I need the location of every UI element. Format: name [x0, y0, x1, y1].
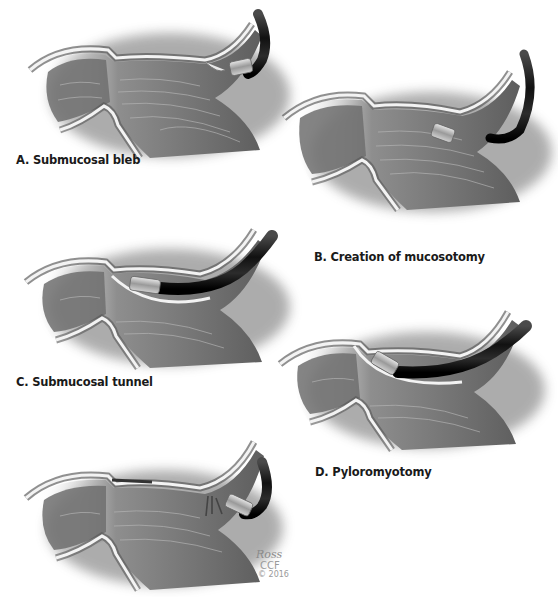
panel-a-illustration: [0, 0, 300, 170]
artist-signature: Ross CCF © 2016: [256, 545, 289, 579]
stomach-cross-section-a: [0, 0, 300, 170]
stomach-cross-section-e: [0, 440, 300, 597]
panel-b-illustration: [262, 52, 558, 222]
stomach-cross-section-d: [262, 310, 558, 460]
panel-e-illustration: [0, 440, 300, 597]
panel-b-label: B. Creation of mucosotomy: [314, 250, 485, 264]
stomach-cross-section-c: [0, 222, 300, 372]
panel-d-label: D. Pyloromyotomy: [315, 465, 432, 479]
panel-d-illustration: [262, 310, 558, 460]
panel-c-illustration: [0, 222, 300, 372]
stomach-cross-section-b: [262, 52, 558, 222]
signature-year: © 2016: [258, 571, 289, 579]
panel-c-label: C. Submucosal tunnel: [16, 375, 153, 389]
panel-a-label: A. Submucosal bleb: [16, 153, 140, 167]
